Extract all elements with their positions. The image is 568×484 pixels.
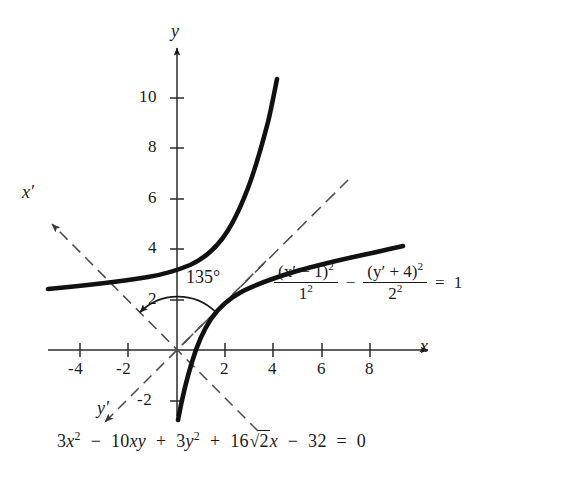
rotation-angle-label: 135°	[186, 268, 220, 286]
rotated-axes	[52, 180, 348, 431]
term4-coefficient: 16	[230, 431, 249, 451]
operator-1: −	[91, 431, 101, 451]
right-denominator-exponent: 2	[397, 283, 403, 295]
term3-coefficient: 3	[176, 431, 185, 451]
left-denominator: 12	[295, 283, 317, 303]
y-prime-axis-label: y′	[97, 399, 109, 417]
x-tick-label-2: 2	[220, 360, 229, 377]
y-tick-label-10: 10	[139, 88, 157, 105]
term3-exponent: 2	[194, 429, 200, 443]
term4-variable: x	[270, 431, 278, 451]
figure-canvas	[0, 0, 568, 484]
x-axis-label: x	[420, 337, 428, 355]
right-numerator-exponent: 2	[417, 260, 423, 272]
y-tick-label-4: 4	[148, 239, 157, 256]
square-root-group: √2	[249, 432, 270, 450]
hyperbola-equals-sign: =	[434, 274, 446, 291]
y-tick-label--2: -2	[137, 391, 152, 408]
left-denominator-exponent: 2	[307, 283, 313, 295]
term2-coefficient: 10	[111, 431, 130, 451]
term5-constant: 32	[308, 431, 327, 451]
operator-4: −	[288, 431, 298, 451]
x-tick-label-4: 4	[268, 360, 277, 377]
hyperbola-minus-operator: −	[345, 274, 357, 291]
term1-exponent: 2	[75, 429, 81, 443]
operator-2: +	[156, 431, 166, 451]
term1-variable: x	[66, 431, 74, 451]
hyperbola-branch-upper-left	[48, 79, 277, 289]
term1-coefficient: 3	[57, 431, 66, 451]
right-denominator: 22	[384, 283, 406, 303]
general-equals-sign: =	[337, 431, 347, 451]
right-numerator: (y′ + 4)2	[363, 262, 427, 282]
x-tick-label-8: 8	[365, 360, 374, 377]
hyperbola-equation: (x′ − 1)2 12 − (y′ + 4)2 22 = 1	[274, 262, 463, 303]
term3-variable: y	[186, 431, 194, 451]
y-tick-label-2: 2	[148, 290, 157, 307]
x-tick-label-6: 6	[317, 360, 326, 377]
x-tick-label--2: -2	[116, 360, 131, 377]
hyperbola-left-fraction: (x′ − 1)2 12	[274, 262, 338, 303]
y-tick-label-6: 6	[148, 189, 157, 206]
general-right-hand-side: 0	[357, 431, 366, 451]
y-axis-label: y	[171, 22, 179, 40]
term2-variable: xy	[130, 431, 147, 451]
left-numerator: (x′ − 1)2	[274, 262, 338, 282]
hyperbola-right-hand-side: 1	[453, 274, 464, 291]
hyperbola-right-fraction: (y′ + 4)2 22	[363, 262, 427, 303]
radicand: 2	[258, 430, 269, 451]
y-tick-label-8: 8	[148, 138, 157, 155]
operator-3: +	[210, 431, 220, 451]
general-conic-equation: 3x2 − 10xy + 3y2 + 16√2x − 32 = 0	[57, 432, 366, 450]
x-prime-axis-label: x′	[22, 183, 34, 201]
left-numerator-exponent: 2	[328, 260, 334, 272]
x-tick-label--4: -4	[68, 360, 83, 377]
